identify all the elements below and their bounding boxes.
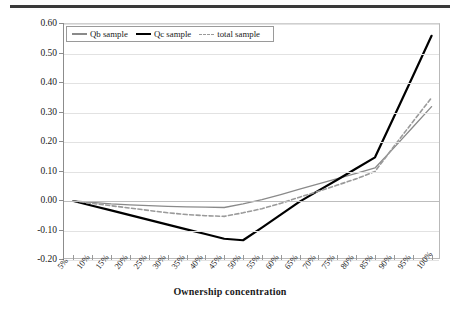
series-line-total-sample [73, 98, 431, 217]
x-axis-tick-mark [111, 255, 112, 260]
legend-label: Qc sample [154, 29, 191, 39]
x-axis-tick-mark [413, 255, 414, 260]
x-axis-tick-mark [168, 255, 169, 260]
line-swatch-icon [72, 33, 87, 35]
zero-baseline [64, 201, 439, 202]
gridline [64, 231, 439, 232]
x-axis-tick-mark [130, 255, 131, 260]
legend-item-total-sample: total sample [197, 29, 260, 39]
series-line-qc-sample [73, 36, 431, 240]
x-axis-tick-mark [432, 255, 433, 260]
chart-legend: Qb sample Qc sample total sample [66, 26, 274, 42]
x-axis-title: Ownership concentration [0, 286, 460, 297]
legend-label: Qb sample [90, 29, 128, 39]
x-axis-tick-mark [205, 255, 206, 260]
legend-label: total sample [217, 29, 260, 39]
legend-item-qc-sample: Qc sample [134, 29, 191, 39]
y-axis-tick-label: 0.10 [17, 166, 57, 176]
y-axis-tick-label: -0.10 [17, 225, 57, 235]
line-swatch-icon [136, 33, 151, 36]
x-axis-tick-mark [149, 255, 150, 260]
dashed-line-swatch-icon [199, 34, 214, 35]
y-axis-tick-label: 0.40 [17, 77, 57, 87]
gridline [64, 142, 439, 143]
series-line-qb-sample [73, 107, 431, 208]
x-axis-tick-mark [243, 255, 244, 260]
x-axis-tick-mark [92, 255, 93, 260]
top-rule-divider [10, 5, 450, 8]
y-axis-tick-label: 0.20 [17, 136, 57, 146]
y-axis-tick-label: 0.30 [17, 107, 57, 117]
x-axis-tick-mark [262, 255, 263, 260]
y-axis-tick-label: 0.60 [17, 18, 57, 28]
gridline [64, 172, 439, 173]
x-axis-tick-mark [337, 255, 338, 260]
y-axis-tick-label: -0.20 [17, 254, 57, 264]
x-axis-tick-mark [356, 255, 357, 260]
x-axis-tick-mark [394, 255, 395, 260]
y-axis-tick-label: 0.50 [17, 48, 57, 58]
x-axis-tick-mark [224, 255, 225, 260]
gridline [64, 113, 439, 114]
figure-canvas: 0.600.500.400.300.200.100.00-0.10-0.205%… [0, 0, 460, 314]
x-axis-tick-mark [73, 255, 74, 260]
plot-area [63, 23, 440, 259]
x-axis-tick-mark [281, 255, 282, 260]
gridline [64, 54, 439, 55]
x-axis-tick-mark [300, 255, 301, 260]
gridline [64, 83, 439, 84]
x-axis-tick-mark [187, 255, 188, 260]
y-axis-tick-label: 0.00 [17, 195, 57, 205]
legend-item-qb-sample: Qb sample [70, 29, 128, 39]
gridline [64, 24, 439, 25]
x-axis-tick-mark [318, 255, 319, 260]
x-axis-tick-mark [375, 255, 376, 260]
gridline [64, 260, 439, 261]
